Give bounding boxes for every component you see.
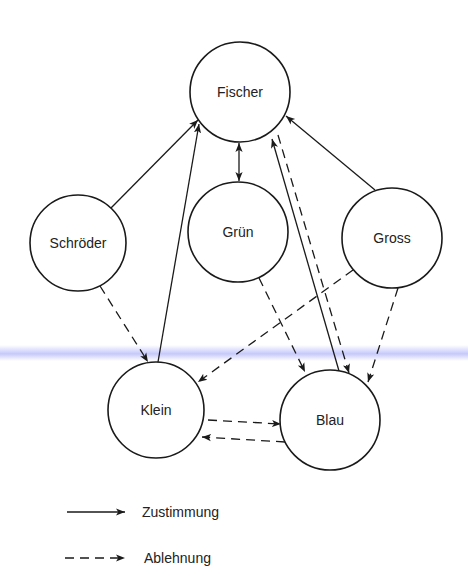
legend-item-rejection: Ablehnung (65, 550, 211, 566)
sociogram-diagram: Fischer Schröder Grün Gross Klein Blau Z… (0, 0, 468, 587)
node-label-blau: Blau (316, 412, 344, 428)
edge-gross-fischer-approval (286, 116, 375, 190)
node-klein: Klein (108, 362, 204, 458)
node-fischer: Fischer (190, 42, 290, 142)
legend: Zustimmung Ablehnung (65, 504, 219, 566)
node-label-gruen: Grün (222, 224, 253, 240)
legend-label-approval: Zustimmung (142, 504, 219, 520)
node-blau: Blau (280, 370, 380, 470)
edge-schroeder-klein-rejection (100, 286, 148, 362)
edge-gross-klein-rejection (198, 270, 353, 382)
node-label-klein: Klein (140, 402, 171, 418)
node-label-fischer: Fischer (217, 84, 263, 100)
edge-gross-blau-rejection (368, 288, 398, 382)
edge-klein-blau-rejection (208, 420, 281, 424)
legend-item-approval: Zustimmung (67, 504, 219, 520)
node-gruen: Grün (188, 182, 288, 282)
node-schroeder: Schröder (30, 195, 126, 291)
node-label-gross: Gross (373, 230, 410, 246)
edge-schroeder-fischer-approval (111, 120, 198, 208)
edge-gruen-blau-rejection (259, 278, 305, 372)
edge-blau-klein-rejection (202, 437, 285, 442)
node-gross: Gross (342, 188, 442, 288)
legend-label-rejection: Ablehnung (144, 550, 211, 566)
node-label-schroeder: Schröder (50, 235, 107, 251)
